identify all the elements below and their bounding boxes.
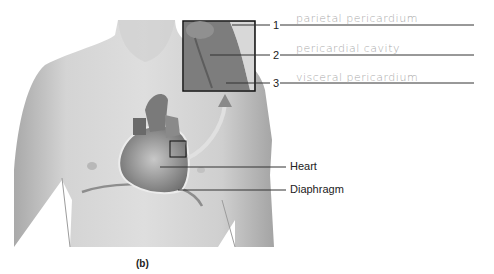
torso-illustration [0,0,494,274]
label-number-2: 2 [272,50,280,61]
answer-field-1[interactable]: parietal pericardium [296,13,418,24]
answer-field-3[interactable]: visceral pericardium [296,72,418,83]
label-number-1: 1 [272,20,280,31]
label-diaphragm: Diaphragm [290,184,344,195]
label-heart: Heart [290,161,317,172]
figure-caption: (b) [136,258,149,269]
answer-field-2[interactable]: pericardial cavity [296,43,400,54]
label-number-3: 3 [272,78,280,89]
